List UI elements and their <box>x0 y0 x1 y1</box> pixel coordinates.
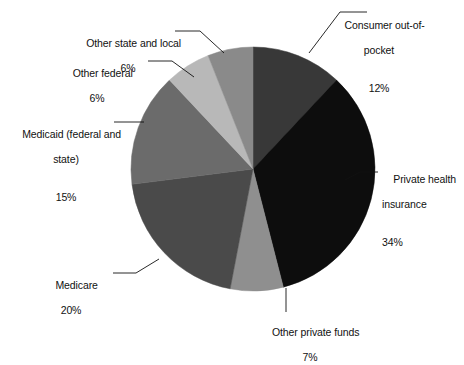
slice-label-other-private-funds: Other private funds 7% <box>248 313 372 365</box>
slice-label-private-health-insurance: Private health insurance 34% <box>382 160 464 273</box>
slice-label-line1: Medicare <box>55 279 97 291</box>
slice-label-line2: insurance <box>382 198 464 211</box>
leader-line-medicare <box>113 259 159 273</box>
slice-label-line2: state) <box>4 153 128 166</box>
slice-label-other-state-and-local: Other state and local 6% <box>60 24 196 100</box>
slice-value-consumer-out-of-pocket: 12% <box>318 82 440 95</box>
slice-label-line2: pocket <box>318 44 440 57</box>
slice-label-line1: Other private funds <box>272 326 359 338</box>
slice-value-other-state-and-local: 6% <box>60 62 196 75</box>
slice-value-other-private-funds: 7% <box>248 351 372 364</box>
slice-value-medicare: 20% <box>28 304 114 317</box>
slice-label-line1: Other state and local <box>86 37 181 49</box>
slice-label-medicare: Medicare 20% <box>28 266 114 342</box>
slice-label-consumer-out-of-pocket: Consumer out-of- pocket 12% <box>318 6 440 119</box>
slice-label-line1: Private health <box>393 173 456 185</box>
slice-value-private-health-insurance: 34% <box>382 236 464 249</box>
slice-label-medicaid: Medicaid (federal and state) 15% <box>4 115 128 228</box>
slice-value-medicaid: 15% <box>4 191 128 204</box>
slice-label-line1: Consumer out-of- <box>345 19 425 31</box>
